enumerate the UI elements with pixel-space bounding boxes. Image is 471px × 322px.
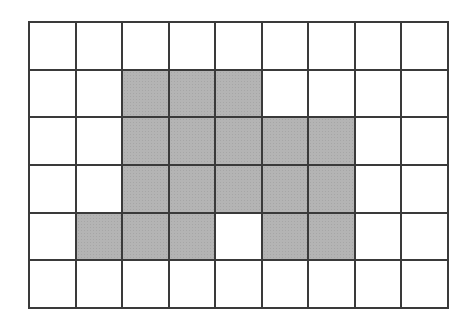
grid-cell-empty xyxy=(402,118,447,164)
grid-cell-shaded xyxy=(170,166,215,212)
grid-cell-empty xyxy=(309,261,354,307)
grid-cell-shaded xyxy=(170,71,215,117)
grid-cell-shaded xyxy=(216,71,261,117)
grid-cell-shaded xyxy=(263,118,308,164)
grid-cell-shaded xyxy=(170,214,215,260)
grid-cell-empty xyxy=(77,23,122,69)
shaded-grid-diagram xyxy=(28,21,449,309)
grid-cell-shaded xyxy=(77,214,122,260)
grid-cell-empty xyxy=(30,23,75,69)
grid-cell-empty xyxy=(356,261,401,307)
grid-cell-shaded xyxy=(309,214,354,260)
grid-cell-empty xyxy=(77,71,122,117)
grid-cell-empty xyxy=(123,261,168,307)
grid-cell-empty xyxy=(356,118,401,164)
grid-cell-shaded xyxy=(216,166,261,212)
grid-cell-shaded xyxy=(309,118,354,164)
grid-cell-empty xyxy=(402,214,447,260)
grid-cell-empty xyxy=(402,23,447,69)
grid-cell-empty xyxy=(402,166,447,212)
grid-cell-shaded xyxy=(263,214,308,260)
grid-cell-shaded xyxy=(123,118,168,164)
grid-cell-shaded xyxy=(123,214,168,260)
grid-cell-empty xyxy=(30,166,75,212)
grid-cell-empty xyxy=(263,71,308,117)
grid-cell-empty xyxy=(30,214,75,260)
grid-cell-empty xyxy=(216,261,261,307)
grid-cell-empty xyxy=(30,261,75,307)
grid-cell-empty xyxy=(402,261,447,307)
grid-cell-empty xyxy=(77,166,122,212)
grid-cell-empty xyxy=(309,71,354,117)
grid-cell-empty xyxy=(30,71,75,117)
grid-cell-empty xyxy=(356,71,401,117)
grid-cell-shaded xyxy=(123,166,168,212)
grid-cell-empty xyxy=(356,214,401,260)
grid-cell-empty xyxy=(309,23,354,69)
grid-cell-empty xyxy=(77,261,122,307)
grid-cell-empty xyxy=(123,23,168,69)
grid-cell-shaded xyxy=(263,166,308,212)
grid-cell-empty xyxy=(263,261,308,307)
grid-cell-empty xyxy=(216,23,261,69)
grid-cell-empty xyxy=(216,214,261,260)
grid-cell-shaded xyxy=(123,71,168,117)
grid-cell-shaded xyxy=(309,166,354,212)
grid-cell-empty xyxy=(356,23,401,69)
grid-cell-shaded xyxy=(170,118,215,164)
grid-cell-empty xyxy=(170,23,215,69)
grid-cell-empty xyxy=(30,118,75,164)
grid-cell-empty xyxy=(170,261,215,307)
grid-cell-shaded xyxy=(216,118,261,164)
grid-cell-empty xyxy=(77,118,122,164)
grid-cell-empty xyxy=(263,23,308,69)
grid-cell-empty xyxy=(356,166,401,212)
grid-cell-empty xyxy=(402,71,447,117)
